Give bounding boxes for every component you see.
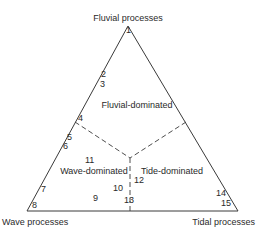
point-label: 7: [41, 184, 46, 194]
ternary-diagram: Fluvial processes Wave processes Tidal p…: [0, 0, 257, 232]
region-label-wave-dominated: Wave-dominated: [60, 166, 128, 176]
point-label: 3: [100, 79, 105, 89]
point-label: 2: [101, 69, 106, 79]
point-label: 4: [78, 113, 83, 123]
region-label-tide-dominated: Tide-dominated: [141, 166, 203, 176]
point-label: 14: [216, 188, 226, 198]
region-label-fluvial-dominated: Fluvial-dominated: [101, 100, 172, 110]
point-label: 13: [124, 195, 134, 205]
data-points: 123456789101112131415: [32, 25, 231, 210]
vertex-label-fluvial: Fluvial processes: [93, 13, 163, 23]
point-label: 10: [113, 183, 123, 193]
ternary-triangle: [27, 26, 238, 211]
point-label: 15: [221, 198, 231, 208]
point-label: 1: [126, 25, 131, 35]
point-label: 9: [93, 193, 98, 203]
point-label: 8: [32, 200, 37, 210]
vertex-label-tidal: Tidal processes: [192, 217, 255, 227]
point-label: 11: [85, 155, 94, 165]
divider-fluvial-tide: [130, 122, 186, 158]
point-label: 6: [63, 141, 68, 151]
vertex-label-wave: Wave processes: [2, 217, 69, 227]
divider-fluvial-wave: [75, 122, 130, 158]
point-label: 12: [134, 175, 144, 185]
